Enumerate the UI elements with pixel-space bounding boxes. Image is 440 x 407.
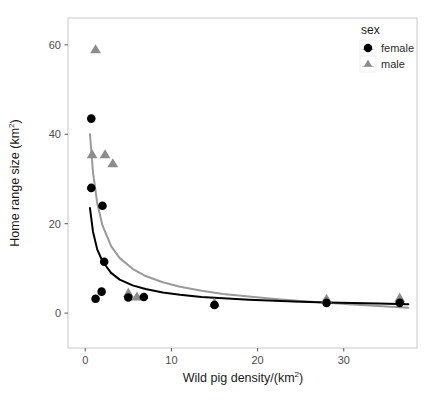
y-tick-label: 40 bbox=[49, 128, 61, 140]
legend-label-male: male bbox=[381, 58, 405, 70]
data-point-female bbox=[91, 295, 100, 304]
data-point-female bbox=[100, 257, 109, 266]
y-axis-tick-labels: 0204060 bbox=[49, 39, 61, 319]
data-point-female bbox=[87, 184, 96, 193]
data-point-female bbox=[395, 299, 404, 308]
data-point-female bbox=[124, 293, 133, 302]
x-axis-tick-labels: 0102030 bbox=[82, 354, 350, 366]
scatter-plot-svg: 0204060 0102030 Wild pig density/(km2) H… bbox=[0, 0, 440, 407]
data-point-female bbox=[210, 301, 219, 310]
y-tick-label: 60 bbox=[49, 39, 61, 51]
x-tick-label: 20 bbox=[251, 354, 263, 366]
data-point-female bbox=[87, 114, 96, 123]
legend-label-female: female bbox=[381, 42, 414, 54]
data-point-female bbox=[97, 287, 106, 296]
x-axis-ticks bbox=[85, 348, 344, 352]
data-point-female bbox=[98, 202, 107, 211]
y-tick-label: 20 bbox=[49, 218, 61, 230]
y-axis-ticks bbox=[65, 45, 69, 313]
x-axis-title: Wild pig density/(km2) bbox=[183, 370, 303, 385]
data-point-female bbox=[322, 299, 331, 308]
y-axis-title: Home range size (km2) bbox=[7, 119, 22, 246]
x-tick-label: 10 bbox=[165, 354, 177, 366]
chart-figure: 0204060 0102030 Wild pig density/(km2) H… bbox=[0, 0, 440, 407]
x-tick-label: 0 bbox=[82, 354, 88, 366]
data-point-female bbox=[140, 293, 149, 302]
x-tick-label: 30 bbox=[338, 354, 350, 366]
y-tick-label: 0 bbox=[55, 307, 61, 319]
legend-title: sex bbox=[361, 23, 380, 37]
